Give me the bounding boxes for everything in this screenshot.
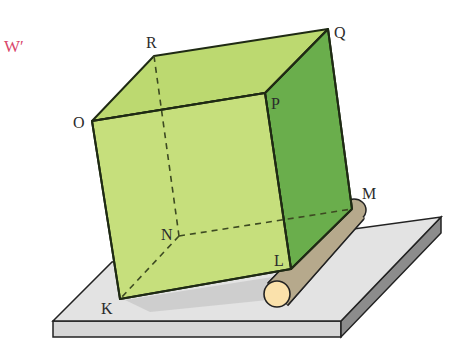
figure-label-w-prime: W′ (4, 37, 24, 56)
vertex-label-q: Q (334, 24, 346, 41)
vertex-label-r: R (146, 34, 157, 51)
vertex-label-m: M (362, 185, 376, 202)
cube-front-face (92, 93, 291, 299)
roller-end-cap (264, 281, 290, 307)
vertex-label-p: P (271, 95, 280, 112)
vertex-label-o: O (73, 114, 85, 131)
vertex-label-l: L (274, 252, 284, 269)
plate-front-side (53, 321, 341, 337)
vertex-label-n: N (161, 226, 173, 243)
cube-on-roller-diagram: W′ R Q O P N M L K (0, 0, 465, 351)
vertex-label-k: K (101, 300, 113, 317)
